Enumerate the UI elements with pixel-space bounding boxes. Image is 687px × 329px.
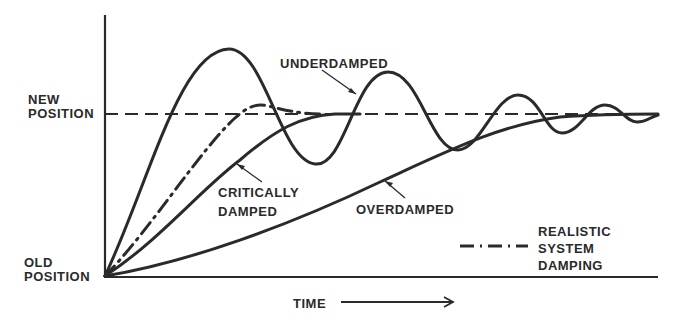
legend-label-line1: REALISTIC <box>538 224 611 239</box>
legend: REALISTIC SYSTEM DAMPING <box>460 224 611 273</box>
critically-damped-label-line2: DAMPED <box>218 204 277 219</box>
old-position-label-line2: POSITION <box>24 269 90 284</box>
underdamped-label: UNDERDAMPED <box>280 56 388 71</box>
damping-chart: NEW POSITION OLD POSITION UNDERDAMPED CR… <box>0 0 687 329</box>
legend-label-line2: SYSTEM <box>538 241 594 256</box>
new-position-label-line1: NEW <box>28 92 60 107</box>
old-position-label-line1: OLD <box>24 255 53 270</box>
overdamped-label: OVERDAMPED <box>356 202 454 217</box>
critically-damped-label-line1: CRITICALLY <box>218 185 299 200</box>
legend-label-line3: DAMPING <box>538 258 603 273</box>
x-axis-label: TIME <box>293 296 326 311</box>
new-position-label-line2: POSITION <box>28 106 94 121</box>
